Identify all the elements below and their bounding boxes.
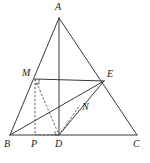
vertex-label-E: E: [107, 69, 113, 79]
segment-ME-line: [35, 79, 104, 81]
vertex-label-P: P: [31, 139, 37, 149]
side-AC-line: [59, 18, 137, 135]
vertex-label-B: B: [4, 139, 10, 149]
vertex-label-C: C: [133, 139, 140, 149]
vertex-label-D: D: [55, 139, 62, 149]
geometry-canvas: [0, 0, 150, 163]
vertex-label-A: A: [55, 2, 61, 12]
vertex-label-M: M: [22, 68, 30, 78]
geometry-figure: A B C D P M E N: [0, 0, 150, 163]
segment-BE-line: [10, 81, 104, 135]
vertex-label-N: N: [82, 102, 89, 112]
segment-MD-line: [35, 79, 59, 135]
segment-DN-line: [59, 105, 80, 135]
